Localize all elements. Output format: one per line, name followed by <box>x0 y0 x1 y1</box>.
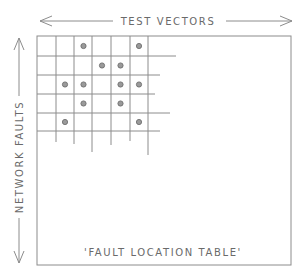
test-vectors-label: TEST VECTORS <box>120 16 216 27</box>
fault-marker-dot <box>118 101 123 106</box>
fault-marker-dot <box>81 43 86 48</box>
fault-marker-dot <box>81 101 86 106</box>
fault-marker-dot <box>99 63 104 68</box>
fault-marker-dot <box>62 82 67 87</box>
fault-marker-dot <box>62 119 67 124</box>
column-lines <box>56 36 148 155</box>
table-border <box>37 36 291 265</box>
fault-location-diagram: TEST VECTORS NETWORK FAULTS 'FAULT LOCAT… <box>0 0 303 280</box>
fault-marker-dot <box>136 43 141 48</box>
row-lines <box>37 56 176 131</box>
fault-marker-dot <box>118 82 123 87</box>
fault-marker-dot <box>118 63 123 68</box>
fault-marker-dot <box>136 82 141 87</box>
table-caption: 'FAULT LOCATION TABLE' <box>84 247 242 258</box>
fault-marker-dot <box>81 82 86 87</box>
network-faults-label: NETWORK FAULTS <box>14 101 25 213</box>
fault-marker-dot <box>136 119 141 124</box>
